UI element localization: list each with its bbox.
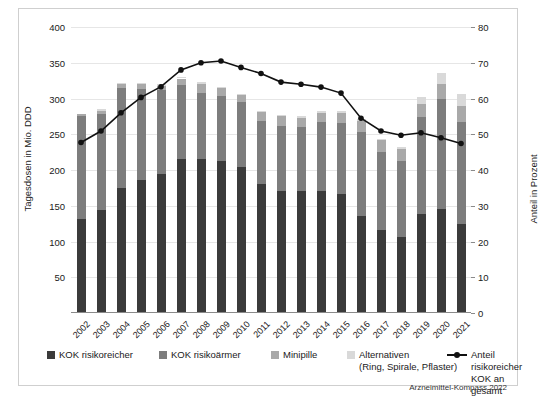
y-axis-tick-right: 10 (478, 272, 489, 283)
line-marker (418, 130, 424, 136)
x-axis-tick-label: 2008 (191, 319, 212, 340)
x-axis-tick-label: 2012 (271, 319, 292, 340)
line-marker (438, 135, 444, 141)
line-series-layer (71, 27, 471, 313)
line-marker (298, 81, 304, 87)
y-axis-tick-left: 400 (49, 22, 65, 33)
x-axis-tick-label: 2015 (331, 319, 352, 340)
y-axis-tick-left: 350 (49, 57, 65, 68)
line-path (81, 61, 461, 144)
y-axis-label-right: Anteil in Prozent (528, 154, 539, 223)
line-marker (378, 128, 384, 134)
y-axis-tick-right: 50 (478, 129, 489, 140)
line-marker (138, 95, 144, 101)
y-axis-tick-left: 150 (49, 200, 65, 211)
x-axis-tick-label: 2016 (351, 319, 372, 340)
x-axis-tick-label: 2018 (391, 319, 412, 340)
x-axis-tick-label: 2019 (411, 319, 432, 340)
legend-line-marker-icon (447, 350, 467, 360)
y-axis-tickmark-right (471, 63, 475, 64)
legend-item[interactable]: Alternativen (Ring, Spirale, Pflaster) (347, 349, 457, 373)
legend-item[interactable]: KOK risikoreicher (47, 349, 133, 361)
x-axis-tick-label: 2007 (171, 319, 192, 340)
x-axis-tick-label: 2005 (131, 319, 152, 340)
line-marker (278, 79, 284, 85)
y-axis-tickmark-right (471, 313, 475, 314)
y-axis-tick-left: 100 (49, 236, 65, 247)
y-axis-tick-left: 300 (49, 93, 65, 104)
legend-swatch-icon (159, 351, 167, 359)
line-marker (398, 133, 404, 139)
y-axis-tickmark-right (471, 206, 475, 207)
y-axis-label-left: Tagesdosen in Mio. DDD (22, 106, 33, 211)
y-axis-tick-right: 40 (478, 165, 489, 176)
x-axis-tick-label: 2011 (251, 319, 272, 340)
y-axis-tick-right: 70 (478, 57, 489, 68)
line-marker (318, 84, 324, 90)
legend-item[interactable]: KOK risikoärmer (159, 349, 241, 361)
line-marker (98, 128, 104, 134)
y-axis-tick-right: 20 (478, 236, 489, 247)
x-axis-tick-label: 2009 (211, 319, 232, 340)
line-marker (218, 58, 224, 64)
x-axis-tick-label: 2006 (151, 319, 172, 340)
x-axis-tick-label: 2020 (431, 319, 452, 340)
line-marker (178, 67, 184, 73)
y-axis-tick-right: 60 (478, 93, 489, 104)
legend-swatch-icon (47, 351, 55, 359)
y-axis-tickmark-right (471, 242, 475, 243)
legend-label: Minipille (283, 349, 317, 361)
line-marker (118, 110, 124, 116)
legend-item[interactable]: Minipille (271, 349, 317, 361)
x-axis-tick-label: 2013 (291, 319, 312, 340)
y-axis-tickmark-right (471, 134, 475, 135)
y-axis-tick-right: 80 (478, 22, 489, 33)
y-axis-tickmark-right (471, 170, 475, 171)
x-axis-tick-label: 2002 (71, 319, 92, 340)
line-marker (458, 141, 464, 147)
y-axis-tick-left: 250 (49, 129, 65, 140)
x-axis-tick-label: 2010 (231, 319, 252, 340)
line-marker (238, 65, 244, 71)
y-axis-tick-right: 0 (478, 308, 483, 319)
source-caption: Arzneimittel-Kompass 2022 (409, 383, 507, 392)
y-axis-tick-left: 50 (54, 272, 65, 283)
line-marker (158, 84, 164, 90)
y-axis-tick-right: 30 (478, 200, 489, 211)
legend-label: Alternativen (Ring, Spirale, Pflaster) (359, 349, 457, 373)
x-axis-tick-label: 2017 (371, 319, 392, 340)
line-marker (358, 115, 364, 121)
line-marker (78, 140, 84, 146)
y-axis-tick-left: 200 (49, 165, 65, 176)
x-axis-tick-label: 2003 (91, 319, 112, 340)
x-axis-tick-label: 2021 (451, 319, 472, 340)
line-marker (338, 90, 344, 96)
y-axis-tickmark-right (471, 277, 475, 278)
x-axis-tick-label: 2014 (311, 319, 332, 340)
plot-area: 5010015020025030035040001020304050607080 (71, 27, 471, 313)
legend-label: KOK risikoärmer (171, 349, 241, 361)
line-marker (258, 71, 264, 77)
legend-swatch-icon (347, 351, 355, 359)
x-axis-tick-label: 2004 (111, 319, 132, 340)
y-axis-tickmark-right (471, 27, 475, 28)
x-axis-line (71, 312, 471, 313)
line-marker (198, 60, 204, 66)
legend-label: KOK risikoreicher (59, 349, 133, 361)
y-axis-tickmark-right (471, 99, 475, 100)
chart-figure: Tagesdosen in Mio. DDD Anteil in Prozent… (18, 8, 518, 386)
legend-swatch-icon (271, 351, 279, 359)
